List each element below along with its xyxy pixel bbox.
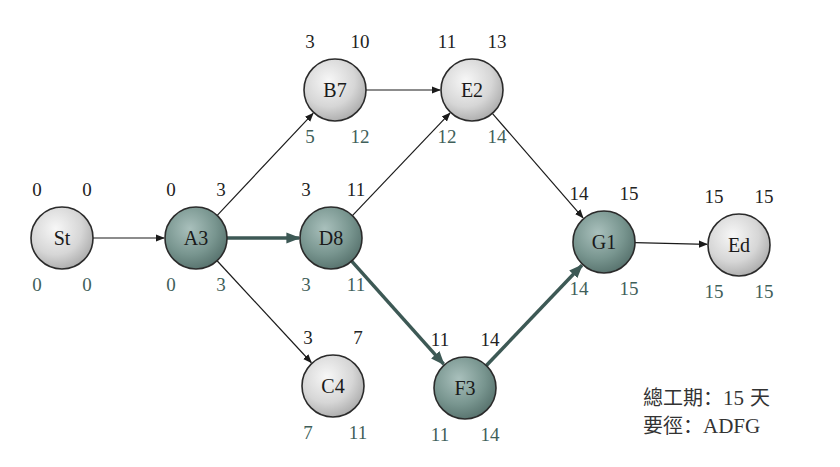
latest-start-value: 7 bbox=[303, 422, 313, 443]
latest-start-value: 11 bbox=[431, 424, 449, 445]
earliest-start-value: 0 bbox=[32, 179, 42, 200]
earliest-finish-value: 14 bbox=[481, 329, 501, 350]
node-label: D8 bbox=[319, 227, 343, 249]
latest-finish-value: 14 bbox=[488, 126, 508, 147]
earliest-start-value: 11 bbox=[431, 329, 449, 350]
earliest-start-value: 3 bbox=[301, 179, 311, 200]
critical-path-label: 要徑： bbox=[643, 414, 703, 438]
critical-path-value: ADFG bbox=[703, 414, 760, 438]
earliest-start-value: 3 bbox=[305, 31, 315, 52]
earliest-start-value: 15 bbox=[705, 186, 724, 207]
latest-start-value: 0 bbox=[166, 274, 176, 295]
earliest-finish-value: 0 bbox=[82, 179, 92, 200]
node-label: E2 bbox=[461, 79, 483, 101]
latest-finish-value: 15 bbox=[620, 278, 639, 299]
earliest-finish-value: 15 bbox=[755, 186, 774, 207]
latest-start-value: 5 bbox=[305, 126, 315, 147]
total-duration-label: 總工期： bbox=[643, 386, 723, 410]
node-label: C4 bbox=[321, 375, 344, 397]
edge-g1-ed bbox=[635, 243, 707, 245]
earliest-finish-value: 7 bbox=[353, 327, 363, 348]
latest-start-value: 15 bbox=[705, 281, 724, 302]
total-duration-value: 15 bbox=[723, 386, 744, 410]
node-b7: B7310512 bbox=[304, 31, 370, 147]
latest-finish-value: 11 bbox=[347, 274, 365, 295]
earliest-start-value: 3 bbox=[303, 327, 313, 348]
summary-box: 總工期：15 天 要徑：ADFG bbox=[643, 384, 770, 440]
edge-a3-b7 bbox=[217, 113, 313, 215]
latest-start-value: 14 bbox=[570, 278, 590, 299]
latest-start-value: 12 bbox=[438, 126, 457, 147]
latest-start-value: 3 bbox=[301, 274, 311, 295]
node-label: G1 bbox=[592, 231, 616, 253]
node-g1: G114151415 bbox=[570, 183, 639, 299]
earliest-finish-value: 15 bbox=[620, 183, 639, 204]
node-f3: F311141114 bbox=[431, 329, 500, 445]
node-label: St bbox=[54, 227, 71, 249]
earliest-finish-value: 11 bbox=[347, 179, 365, 200]
node-label: Ed bbox=[728, 234, 750, 256]
latest-finish-value: 14 bbox=[481, 424, 501, 445]
earliest-finish-value: 13 bbox=[488, 31, 507, 52]
node-label: B7 bbox=[323, 79, 346, 101]
node-label: A3 bbox=[184, 227, 208, 249]
latest-finish-value: 0 bbox=[82, 274, 92, 295]
earliest-start-value: 11 bbox=[438, 31, 456, 52]
node-a3: A30303 bbox=[165, 179, 227, 295]
latest-finish-value: 12 bbox=[351, 126, 370, 147]
latest-finish-value: 15 bbox=[755, 281, 774, 302]
earliest-finish-value: 10 bbox=[351, 31, 370, 52]
earliest-finish-value: 3 bbox=[216, 179, 226, 200]
edge-f3-g1 bbox=[486, 265, 582, 365]
node-st: St0000 bbox=[31, 179, 93, 295]
latest-finish-value: 11 bbox=[349, 422, 367, 443]
node-label: F3 bbox=[454, 377, 475, 399]
node-ed: Ed15151515 bbox=[705, 186, 774, 302]
node-e2: E211131214 bbox=[438, 31, 508, 147]
latest-finish-value: 3 bbox=[216, 274, 226, 295]
earliest-start-value: 14 bbox=[570, 183, 590, 204]
critical-path: 要徑：ADFG bbox=[643, 412, 770, 440]
earliest-start-value: 0 bbox=[166, 179, 176, 200]
node-c4: C437711 bbox=[302, 327, 367, 443]
total-duration: 總工期：15 天 bbox=[643, 384, 770, 412]
node-d8: D8311311 bbox=[300, 179, 365, 295]
edge-a3-c4 bbox=[217, 261, 311, 363]
total-duration-unit: 天 bbox=[744, 386, 770, 410]
latest-start-value: 0 bbox=[32, 274, 42, 295]
